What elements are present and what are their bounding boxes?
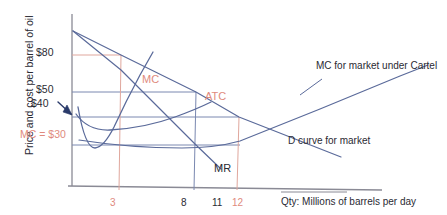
y-tick-label-40: $40 <box>31 98 49 109</box>
y-axis-title: Price and cost per barrel of oil <box>24 0 35 170</box>
cartel-mc-leader-line <box>300 79 322 95</box>
qty-line-3 <box>119 55 121 190</box>
cartel-marginal-cost-curve <box>79 65 428 148</box>
curve-label-d-curve: D curve for market <box>288 136 370 146</box>
curve-label-atc: ATC <box>205 91 226 102</box>
x-axis-line <box>68 186 382 190</box>
x-axis-title: Qty: Millions of barrels per day <box>281 197 416 207</box>
curve-label-cartel-mc: MC for market under Cartel <box>316 61 437 71</box>
price-40-arrow-head <box>63 105 72 115</box>
y-tick-label-mc30: MC = $30 <box>20 129 66 140</box>
economics-chart-plot <box>0 0 447 215</box>
x-tick-label-8: 8 <box>181 198 187 208</box>
curve-label-mr: MR <box>214 163 231 174</box>
x-tick-label-11: 11 <box>212 198 222 208</box>
chart-canvas: Price and cost per barrel of oil Qty: Mi… <box>0 0 447 215</box>
average-total-cost-curve <box>76 102 211 130</box>
y-tick-label-80: $80 <box>36 47 54 58</box>
x-tick-label-3: 3 <box>110 198 116 208</box>
qty-line-12 <box>237 117 239 190</box>
y-tick-label-50: $50 <box>36 84 54 95</box>
qty-line-8 <box>194 92 196 190</box>
x-tick-label-12: 12 <box>232 198 243 208</box>
curve-label-mc: MC <box>142 74 159 85</box>
marginal-cost-curve <box>78 52 153 148</box>
